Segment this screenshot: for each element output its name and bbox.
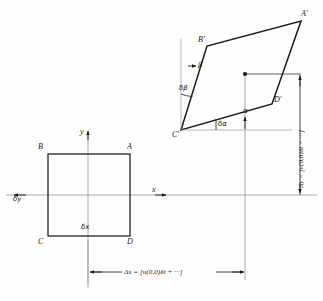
label-vertex-A-prime: A′ — [301, 10, 308, 18]
label-vertex-B-prime: B′ — [198, 36, 205, 44]
label-axis-y: y — [80, 128, 84, 136]
figure-canvas — [0, 0, 323, 301]
label-delta-y: δy — [13, 196, 21, 203]
label-delta-alpha: δα — [218, 121, 227, 128]
deformation-figure: B A C D δy δx x y B′ A′ C′ D′ β δβ δα α … — [0, 0, 323, 301]
label-vertex-D-prime: D′ — [274, 96, 282, 104]
label-beta: β — [198, 62, 202, 69]
label-alpha: α — [243, 108, 248, 115]
label-vertex-A: A — [127, 143, 132, 151]
label-delta-y-dimension: Δy = [v(0,0)δt + ···] — [297, 130, 305, 188]
displaced-origin-dot — [243, 72, 247, 76]
label-vertex-C-prime: C′ — [172, 131, 179, 139]
label-vertex-C: C — [38, 238, 43, 246]
label-delta-x-dimension: Δx = [u(0,0)δt + ···] — [124, 268, 183, 276]
delta-x-dimension — [88, 240, 244, 283]
label-delta-beta: δβ — [179, 85, 188, 92]
label-axis-x: x — [152, 186, 156, 194]
delta-beta-arc — [181, 94, 192, 97]
label-vertex-B: B — [38, 143, 43, 151]
label-vertex-D: D — [127, 238, 133, 246]
label-delta-x: δx — [81, 224, 89, 231]
